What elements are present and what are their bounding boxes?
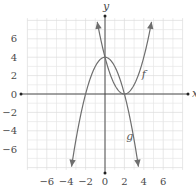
y-tick-label: −4 [2, 125, 17, 136]
f-curve-label: f [141, 68, 148, 81]
x-axis-label: x [192, 87, 196, 100]
axis-end-dot-icon [20, 93, 23, 96]
arrowhead-icon [147, 22, 153, 29]
arrowhead-icon [69, 159, 75, 166]
x-tick-label: 2 [121, 176, 127, 187]
y-tick-label: 2 [11, 70, 17, 81]
tick-labels: −6−4−202466420−2−4−6 [2, 33, 166, 187]
x-tick-label: −2 [78, 176, 93, 187]
x-tick-label: −6 [39, 176, 54, 187]
g-curve-label: g [126, 130, 133, 143]
axis-end-dot-icon [187, 93, 190, 96]
x-tick-label: 0 [102, 176, 108, 187]
y-tick-label: −6 [2, 144, 17, 155]
axis-end-dot-icon [104, 15, 107, 18]
y-axis-label: y [102, 0, 110, 13]
y-tick-label: 0 [11, 89, 17, 100]
x-tick-label: 6 [160, 176, 166, 187]
x-tick-label: −4 [59, 176, 74, 187]
y-tick-label: −2 [2, 107, 17, 118]
coordinate-plane: −6−4−202466420−2−4−6 x y f g [0, 0, 196, 188]
y-tick-label: 6 [11, 33, 17, 44]
arrowhead-icon [134, 159, 140, 166]
y-tick-label: 4 [11, 52, 17, 63]
axis-end-dot-icon [104, 172, 107, 175]
x-tick-label: 4 [141, 176, 147, 187]
arrowhead-icon [95, 22, 101, 29]
